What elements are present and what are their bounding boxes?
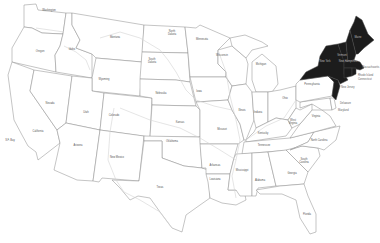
state-connecticut[interactable] [344,68,352,78]
label-nebraska: Nebraska [155,93,166,96]
label-maryland: Maryland [338,110,349,113]
label-new-hampshire: New Hampshire [339,61,357,64]
us-map [0,0,380,243]
label-arkansas: Arkansas [210,165,221,168]
label-oklahoma: Oklahoma [166,141,178,144]
label-connecticut: Connecticut [358,79,372,82]
label-tennessee: Tennessee [258,145,271,148]
label-alabama: Alabama [255,180,265,183]
label-virginia: Virginia [312,116,321,119]
label-sf-bay: S.F. Bay [5,140,15,143]
label-mississippi: Mississippi [236,170,249,173]
label-massachusetts: Massachusetts [362,67,379,70]
label-texas: Texas [157,187,164,190]
label-vermont: Vermont [337,55,347,58]
state-florida[interactable] [256,184,316,234]
state-rhode-island[interactable] [352,68,356,76]
label-south-carolina: South Carolina [297,159,311,164]
label-ohio: Ohio [282,98,287,101]
label-oregon: Oregon [36,51,45,54]
label-south-dakota: South Dakota [145,59,159,64]
label-north-dakota: North Dakota [165,31,179,36]
label-california: California [33,131,44,134]
label-montana: Montana [110,37,120,40]
label-louisiana: Louisiana [209,179,220,182]
label-kentucky: Kentucky [258,133,269,136]
label-utah: Utah [83,112,88,115]
state-north-dakota[interactable] [142,25,188,53]
label-north-carolina: North Carolina [311,140,328,143]
label-iowa: Iowa [196,91,201,94]
label-maine: Maine [354,37,361,40]
label-idaho: Idaho [69,49,76,52]
state-arizona[interactable] [54,123,100,181]
label-florida: Florida [303,214,311,217]
label-arizona: Arizona [74,145,83,148]
label-nevada: Nevada [46,103,55,106]
label-washington: Washington [42,10,56,13]
label-indiana: Indiana [254,112,263,115]
label-new-jersey: New Jersey [341,87,355,90]
label-delaware: Delaware [340,103,351,106]
label-minnesota: Minnesota [196,39,208,42]
label-illinois: Illinois [238,110,245,113]
state-michigan[interactable] [252,54,278,92]
label-wyoming: Wyoming [99,79,110,82]
label-new-mexico: New Mexico [110,157,124,160]
label-michigan: Michigan [256,64,266,67]
label-kansas: Kansas [176,122,185,125]
label-missouri: Missouri [217,129,227,132]
label-west-virginia: West Virginia [287,120,299,125]
label-georgia: Georgia [287,173,296,176]
label-colorado: Colorado [109,115,120,118]
label-new-york: New York [320,61,331,64]
label-wisconsin: Wisconsin [216,55,228,58]
label-pennsylvania: Pennsylvania [304,84,319,87]
